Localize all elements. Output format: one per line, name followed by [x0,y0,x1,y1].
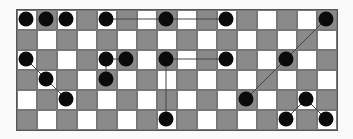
stone-piece[interactable] [159,12,174,27]
stone-piece[interactable] [219,52,234,67]
stone-piece[interactable] [299,92,314,107]
stone-piece[interactable] [99,52,114,67]
stone-piece[interactable] [59,12,74,27]
stone-piece[interactable] [99,12,114,27]
connection-line [286,19,326,59]
stone-piece[interactable] [39,72,54,87]
stone-piece[interactable] [279,112,294,127]
stone-piece[interactable] [99,72,114,87]
board-overlay [16,9,336,129]
stone-piece[interactable] [159,112,174,127]
stone-piece[interactable] [159,52,174,67]
stone-piece[interactable] [119,52,134,67]
stone-piece[interactable] [59,92,74,107]
stone-piece[interactable] [39,12,54,27]
stone-piece[interactable] [279,52,294,67]
stone-piece[interactable] [19,52,34,67]
stone-piece[interactable] [319,112,334,127]
stone-piece[interactable] [319,12,334,27]
connection-line [246,59,286,99]
stone-piece[interactable] [219,12,234,27]
stone-piece[interactable] [19,12,34,27]
stone-piece[interactable] [239,92,254,107]
